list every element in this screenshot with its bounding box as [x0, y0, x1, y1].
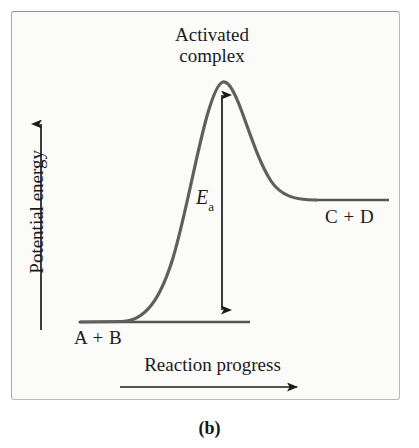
- activation-energy-label: Ea: [196, 186, 214, 213]
- reactants-label: A + B: [74, 327, 122, 348]
- y-axis-label: Potential energy: [26, 150, 47, 274]
- energy-diagram-figure: Activated complex Ea A + B C + D Potenti…: [0, 0, 419, 448]
- activation-energy-symbol: E: [196, 186, 208, 208]
- x-axis-label: Reaction progress: [100, 354, 325, 375]
- products-label: C + D: [325, 206, 374, 227]
- activation-energy-subscript: a: [208, 199, 214, 214]
- activated-complex-label: Activated complex: [128, 24, 296, 67]
- activated-complex-label-line1: Activated: [175, 24, 249, 45]
- figure-caption: (b): [0, 418, 419, 439]
- activated-complex-label-line2: complex: [179, 45, 244, 66]
